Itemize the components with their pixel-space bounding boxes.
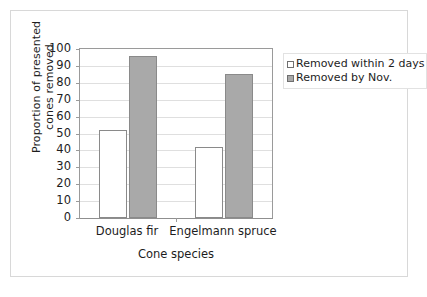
white-square-icon [287,61,294,68]
y-axis-tick [76,100,80,101]
y-axis-tick [76,184,80,185]
y-axis-tick [76,201,80,202]
chart-legend: Removed within 2 daysRemoved by Nov. [283,53,427,89]
bar-engelmann-spruce-removed-within-2-days [195,147,223,218]
plot-area [79,48,273,219]
bar-douglas-fir-removed-within-2-days [99,130,127,218]
gridline [80,66,272,67]
y-axis-tick [76,167,80,168]
y-axis-tick [76,66,80,67]
y-axis-tick [76,134,80,135]
bar-engelmann-spruce-removed-by-nov [225,74,253,218]
y-axis-tick [76,49,80,50]
y-axis-tick-label: 30 [37,161,71,172]
x-axis-tick [176,218,177,222]
y-axis-tick-label: 100 [37,43,71,54]
gray-square-icon [287,75,294,82]
y-axis-tick-label: 50 [37,127,71,138]
y-axis-tick-label: 20 [37,178,71,189]
legend-item-label: Removed by Nov. [296,72,392,84]
y-axis-tick [76,117,80,118]
y-axis-tick-label: 90 [37,59,71,70]
y-axis-tick [76,83,80,84]
legend-item-label: Removed within 2 days [296,58,424,70]
chart-figure: Proportion of presented cones removed 01… [10,10,408,277]
y-axis-tick-labels: 0102030405060708090100 [37,42,71,214]
legend-item: Removed by Nov. [287,71,424,85]
y-axis-tick [76,218,80,219]
y-axis-tick-label: 70 [37,93,71,104]
x-axis-tick-label: Engelmann spruce [169,225,276,238]
y-axis-tick-label: 0 [37,212,71,223]
y-axis-tick-label: 80 [37,76,71,87]
x-axis-tick-label: Douglas fir [96,225,158,238]
y-axis-tick-label: 60 [37,110,71,121]
x-axis-title: Cone species [79,247,273,261]
bar-douglas-fir-removed-by-nov [129,56,157,218]
y-axis-tick-label: 10 [37,195,71,206]
y-axis-tick [76,150,80,151]
legend-item: Removed within 2 days [287,57,424,71]
y-axis-tick-label: 40 [37,144,71,155]
